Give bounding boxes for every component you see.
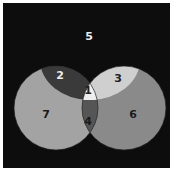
label-1: 1 [84,84,92,97]
label-7: 7 [42,108,50,121]
label-6: 6 [129,108,137,121]
label-3: 3 [114,72,122,85]
label-4: 4 [84,115,92,128]
label-5: 5 [85,30,93,43]
label-2: 2 [56,69,64,82]
venn-diagram: 5 2 1 3 7 4 6 [0,0,177,173]
